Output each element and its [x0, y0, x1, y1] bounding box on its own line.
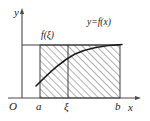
- y-axis-label: y: [13, 6, 19, 18]
- curve-label: y=f(x): [86, 17, 111, 28]
- height-label-f-xi: f(ξ): [41, 30, 54, 41]
- x-axis-label: x: [127, 101, 133, 113]
- tick-label-b: b: [115, 100, 121, 112]
- integral-mean-value-figure: y x O a ξ b f(ξ) y=f(x): [0, 0, 150, 121]
- x-axis-arrow-icon: [135, 96, 141, 100]
- tick-label-a: a: [36, 100, 42, 112]
- figure-canvas: y x O a ξ b f(ξ) y=f(x): [0, 0, 150, 121]
- origin-label: O: [9, 100, 17, 112]
- tick-label-xi: ξ: [64, 100, 69, 113]
- y-axis-arrow-icon: [20, 8, 24, 14]
